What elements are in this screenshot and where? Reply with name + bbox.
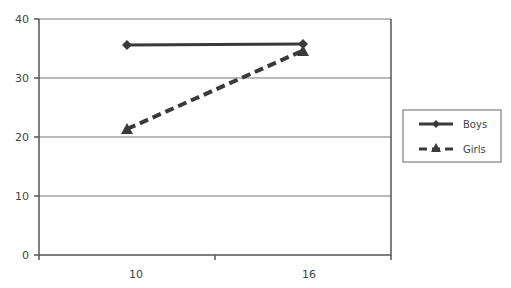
- legend-label-girls: Girls: [463, 144, 486, 155]
- axes: [34, 19, 391, 260]
- y-tick-label: 40: [15, 13, 29, 26]
- legend: Boys Girls: [403, 110, 501, 162]
- line-chart: 40 30 20 10 0 10 16 Boys Girls: [0, 0, 511, 288]
- x-tick-label: 16: [302, 268, 316, 281]
- series-boys: [122, 39, 308, 50]
- y-tick-label: 20: [15, 131, 29, 144]
- diamond-marker-icon: [122, 40, 132, 50]
- legend-label-boys: Boys: [463, 119, 487, 130]
- series-girls: [121, 45, 309, 134]
- y-tick-label: 0: [22, 249, 29, 262]
- diamond-marker-icon: [298, 39, 308, 49]
- y-tick-label: 10: [15, 190, 29, 203]
- y-tick-label: 30: [15, 72, 29, 85]
- x-tick-label: 10: [129, 268, 143, 281]
